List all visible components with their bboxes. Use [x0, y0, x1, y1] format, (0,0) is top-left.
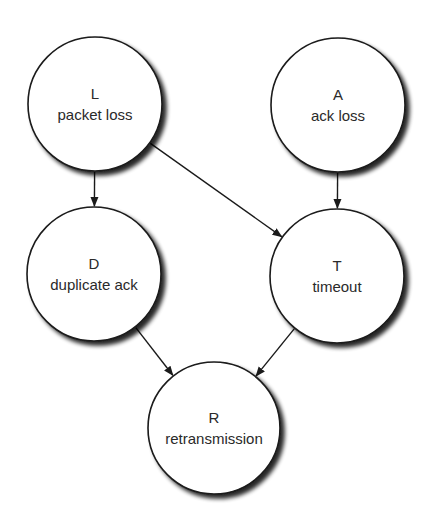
node-ack-loss: Aack loss	[271, 38, 405, 172]
node-label: retransmission	[165, 430, 263, 447]
node-packet-loss: Lpacket loss	[28, 37, 162, 171]
node-circle	[271, 38, 405, 172]
node-label: timeout	[312, 278, 362, 295]
node-retransmission: Rretransmission	[148, 362, 280, 494]
edge-arrow-t-to-r	[256, 329, 294, 376]
node-label: duplicate ack	[50, 276, 138, 293]
node-symbol: A	[333, 86, 343, 103]
node-symbol: D	[89, 255, 100, 272]
node-circle	[28, 37, 162, 171]
node-duplicate-ack: Dduplicate ack	[27, 207, 161, 341]
edge-arrow-l-to-t	[150, 143, 281, 236]
node-circle	[148, 362, 280, 494]
node-symbol: L	[91, 85, 99, 102]
edge-arrow-d-to-r	[136, 328, 173, 376]
node-label: ack loss	[311, 107, 365, 124]
node-symbol: T	[332, 257, 341, 274]
node-circle	[270, 209, 404, 343]
node-circle	[27, 207, 161, 341]
nodes-layer: Lpacket lossAack lossDduplicate ackTtime…	[27, 37, 405, 494]
causal-diagram: Lpacket lossAack lossDduplicate ackTtime…	[0, 0, 428, 522]
node-label: packet loss	[57, 106, 132, 123]
node-symbol: R	[209, 409, 220, 426]
node-timeout: Ttimeout	[270, 209, 404, 343]
